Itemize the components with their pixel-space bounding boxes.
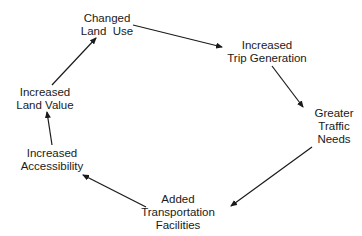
node-increased-trip-generation: Increased Trip Generation [227,39,306,65]
arrow-increased-accessibility-to-increased-land-value [47,112,52,145]
arrow-added-transportation-facilities-to-increased-accessibility [83,175,146,207]
node-greater-traffic-needs: Greater Traffic Needs [315,107,354,146]
node-line: Traffic [315,120,354,133]
node-line: Accessibility [21,160,84,173]
arrow-changed-land-use-to-increased-trip-generation [133,25,222,47]
node-changed-land-use: Changed Land Use [81,12,133,38]
node-line: Increased [21,147,84,160]
node-added-transportation-facilities: Added Transportation Facilities [141,193,215,232]
node-line: Facilities [141,219,215,232]
node-line: Increased [16,86,73,99]
arrow-greater-traffic-needs-to-added-transportation-facilities [231,147,312,206]
node-line: Greater [315,107,354,120]
arrow-increased-trip-generation-to-greater-traffic-needs [272,66,303,107]
node-line: Transportation [141,206,215,219]
node-line: Changed [81,12,133,25]
node-increased-accessibility: Increased Accessibility [21,147,84,173]
arrow-increased-land-value-to-changed-land-use [52,38,96,85]
node-line: Land Use [81,25,133,38]
node-increased-land-value: Increased Land Value [16,86,73,112]
node-line: Land Value [16,99,73,112]
node-line: Needs [315,133,354,146]
node-line: Trip Generation [227,52,306,65]
node-line: Increased [227,39,306,52]
node-line: Added [141,193,215,206]
